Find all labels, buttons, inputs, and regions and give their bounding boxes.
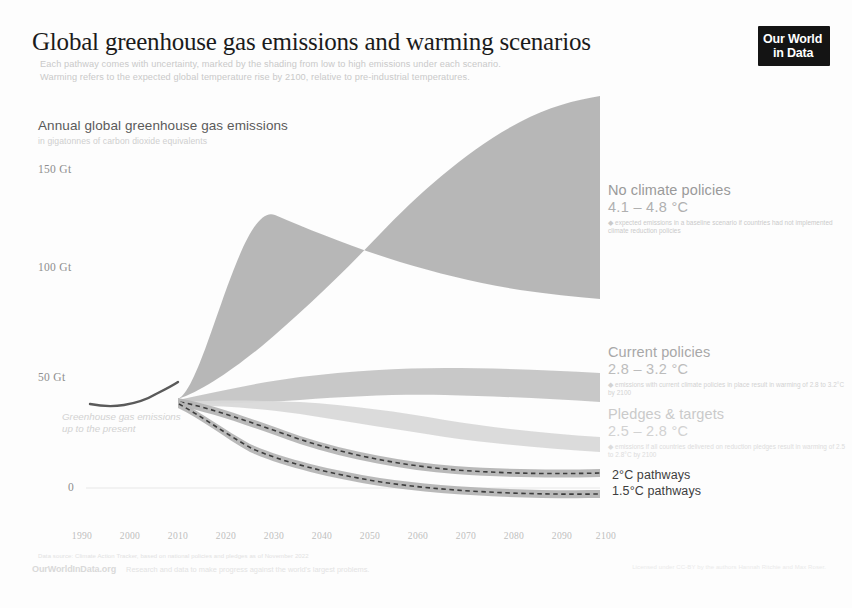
x-tick-2000: 2000 [110, 530, 150, 541]
scenario-name-pledges-targets: Pledges & targets [608, 406, 852, 423]
historical-emissions-note: Greenhouse gas emissions up to the prese… [62, 411, 181, 435]
annotation-current-policies[interactable]: Current policies 2.8 – 3.2 °C ◆ emission… [608, 344, 852, 397]
x-tick-2040: 2040 [302, 530, 342, 541]
footer-license: Licensed under CC-BY by the authors Hann… [632, 564, 826, 570]
x-tick-1990: 1990 [62, 530, 102, 541]
y-tick-100: 100 Gt [38, 261, 71, 273]
x-tick-2060: 2060 [398, 530, 438, 541]
scenario-desc-pledges-targets: ◆ emissions if all countries delivered o… [608, 443, 852, 459]
footer-bar: OurWorldInData.org Research and data to … [32, 564, 369, 574]
x-tick-2010: 2010 [158, 530, 198, 541]
x-tick-2050: 2050 [350, 530, 390, 541]
y-tick-0: 0 [68, 481, 74, 493]
x-tick-2080: 2080 [494, 530, 534, 541]
bullet-icon: ◆ [608, 381, 615, 388]
chart-canvas: Global greenhouse gas emissions and warm… [0, 0, 852, 608]
x-tick-2100: 2100 [586, 530, 626, 541]
historical-note-line-2: up to the present [62, 423, 181, 435]
line-historical-emissions [90, 382, 178, 406]
scenario-desc-text-current-policies: emissions with current climate policies … [608, 381, 844, 396]
data-source-line: Data source: Climate Action Tracker, bas… [38, 553, 309, 559]
footer-brand[interactable]: OurWorldInData.org [32, 564, 116, 574]
label-1p5c-pathways: 1.5°C pathways [612, 484, 701, 498]
scenario-temp-current-policies: 2.8 – 3.2 °C [608, 361, 852, 378]
y-tick-150: 150 Gt [38, 163, 71, 175]
scenario-name-no-climate-policies: No climate policies [608, 182, 852, 199]
y-tick-50: 50 Gt [38, 371, 65, 383]
x-tick-2090: 2090 [542, 530, 582, 541]
bullet-icon: ◆ [608, 219, 615, 226]
scenario-temp-no-climate-policies: 4.1 – 4.8 °C [608, 199, 852, 216]
scenario-desc-current-policies: ◆ emissions with current climate policie… [608, 381, 852, 397]
x-tick-2070: 2070 [446, 530, 486, 541]
footer-tagline: Research and data to make progress again… [126, 565, 369, 574]
bullet-icon: ◆ [608, 443, 615, 450]
emissions-plot [0, 0, 852, 608]
annotation-pledges-targets[interactable]: Pledges & targets 2.5 – 2.8 °C ◆ emissio… [608, 406, 852, 459]
label-2c-pathways: 2°C pathways [612, 468, 690, 482]
x-tick-2030: 2030 [254, 530, 294, 541]
scenario-desc-text-no-climate-policies: expected emissions in a baseline scenari… [608, 219, 833, 234]
annotation-no-climate-policies[interactable]: No climate policies 4.1 – 4.8 °C ◆ expec… [608, 182, 852, 235]
scenario-desc-text-pledges-targets: emissions if all countries delivered on … [608, 443, 845, 458]
scenario-desc-no-climate-policies: ◆ expected emissions in a baseline scena… [608, 219, 852, 235]
scenario-name-current-policies: Current policies [608, 344, 852, 361]
scenario-temp-pledges-targets: 2.5 – 2.8 °C [608, 423, 852, 440]
historical-note-line-1: Greenhouse gas emissions [62, 411, 181, 423]
x-tick-2020: 2020 [206, 530, 246, 541]
